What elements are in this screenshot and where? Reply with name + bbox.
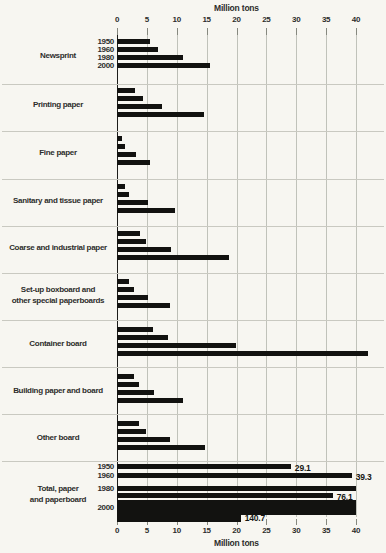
bar <box>117 96 143 101</box>
top-tick-mark <box>237 28 238 35</box>
bottom-tick-label: 5 <box>137 526 157 535</box>
category-label-line: Building paper and board <box>13 385 103 396</box>
bar <box>117 112 204 117</box>
bar <box>117 437 170 442</box>
total-bar-wrap <box>117 515 241 522</box>
total-bar-block <box>117 500 356 515</box>
year-label: 2000 <box>84 61 114 70</box>
bar <box>117 200 148 205</box>
category-label-line: Other board <box>37 432 79 443</box>
bar <box>117 208 175 213</box>
category-label-line: Total, paper <box>37 483 78 494</box>
category-separator <box>2 131 384 132</box>
top-axis-title: Million tons <box>117 3 356 13</box>
top-tick-label: 35 <box>316 15 336 24</box>
bar <box>117 374 134 379</box>
top-tick-mark <box>326 28 327 35</box>
top-tick-label: 20 <box>227 15 247 24</box>
category-separator <box>2 84 384 85</box>
bar <box>117 279 129 284</box>
category-label: Building paper and board <box>2 385 114 396</box>
bar <box>117 239 146 244</box>
bottom-tick-label: 20 <box>227 526 247 535</box>
category-separator <box>2 179 384 180</box>
category-separator <box>2 461 384 462</box>
bar <box>117 104 162 109</box>
bar <box>117 445 205 450</box>
bottom-tick-mark <box>266 519 267 525</box>
total-bar <box>117 486 356 491</box>
bar <box>117 421 139 426</box>
top-tick-mark <box>356 28 357 35</box>
top-tick-label: 10 <box>167 15 187 24</box>
category-label: Container board <box>2 338 114 349</box>
category-separator <box>2 273 384 274</box>
category-label: Other board <box>2 432 114 443</box>
category-separator <box>2 414 384 415</box>
bottom-tick-mark <box>296 519 297 525</box>
bottom-axis-title: Million tons <box>117 538 356 548</box>
bar <box>117 192 129 197</box>
category-label-line: Coarse and industrial paper <box>9 242 107 253</box>
bottom-tick-label: 25 <box>256 526 276 535</box>
top-tick-mark <box>296 28 297 35</box>
bar <box>117 88 135 93</box>
bar <box>117 429 146 434</box>
bottom-tick-label: 10 <box>167 526 187 535</box>
top-tick-label: 15 <box>197 15 217 24</box>
bar <box>117 295 148 300</box>
bar <box>117 303 170 308</box>
year-label: 2000 <box>84 503 114 512</box>
category-label: Coarse and industrial paper <box>2 242 114 253</box>
bottom-tick-mark <box>326 519 327 525</box>
bar <box>117 39 150 44</box>
year-label: 1980 <box>84 484 114 493</box>
category-label-line: other special paperboards <box>12 295 105 306</box>
top-tick-mark <box>117 28 118 35</box>
category-label-line: Printing paper <box>33 99 83 110</box>
bar <box>117 382 139 387</box>
top-tick-label: 25 <box>256 15 276 24</box>
total-bar <box>117 473 352 478</box>
bar <box>117 63 210 68</box>
category-label-line: Newsprint <box>40 50 76 61</box>
year-label: 1950 <box>84 462 114 471</box>
bottom-tick-label: 15 <box>197 526 217 535</box>
top-tick-mark <box>147 28 148 35</box>
category-label: Printing paper <box>2 99 114 110</box>
bar <box>117 184 125 189</box>
bottom-tick-label: 35 <box>316 526 336 535</box>
top-tick-label: 5 <box>137 15 157 24</box>
top-tick-mark <box>177 28 178 35</box>
top-tick-mark <box>207 28 208 35</box>
category-label-line: Sanitary and tissue paper <box>13 195 103 206</box>
value-label: 29.1 <box>295 463 311 473</box>
bar <box>117 255 229 260</box>
bottom-tick-mark <box>356 519 357 525</box>
bar <box>117 144 125 149</box>
category-label: Set-up boxboard andother special paperbo… <box>2 284 114 306</box>
paper-production-bar-chart: Million tons Million tons 00551010151520… <box>0 0 386 553</box>
category-separator <box>2 367 384 368</box>
top-tick-label: 30 <box>286 15 306 24</box>
bar <box>117 351 368 356</box>
bar <box>117 287 134 292</box>
bottom-tick-label: 0 <box>107 526 127 535</box>
bar <box>117 390 154 395</box>
category-label-line: Set-up boxboard and <box>21 284 95 295</box>
bottom-tick-label: 30 <box>286 526 306 535</box>
bar <box>117 327 153 332</box>
bottom-tick-label: 40 <box>346 526 366 535</box>
bar <box>117 231 140 236</box>
category-label-line: Fine paper <box>39 147 76 158</box>
top-tick-label: 40 <box>346 15 366 24</box>
category-separator <box>2 320 384 321</box>
bar <box>117 136 122 141</box>
category-separator <box>2 226 384 227</box>
total-bar-wrap <box>117 493 333 498</box>
value-label: 39.3 <box>356 472 372 482</box>
total-bar <box>117 464 291 469</box>
bar <box>117 247 171 252</box>
top-tick-label: 0 <box>107 15 127 24</box>
category-label: Sanitary and tissue paper <box>2 195 114 206</box>
